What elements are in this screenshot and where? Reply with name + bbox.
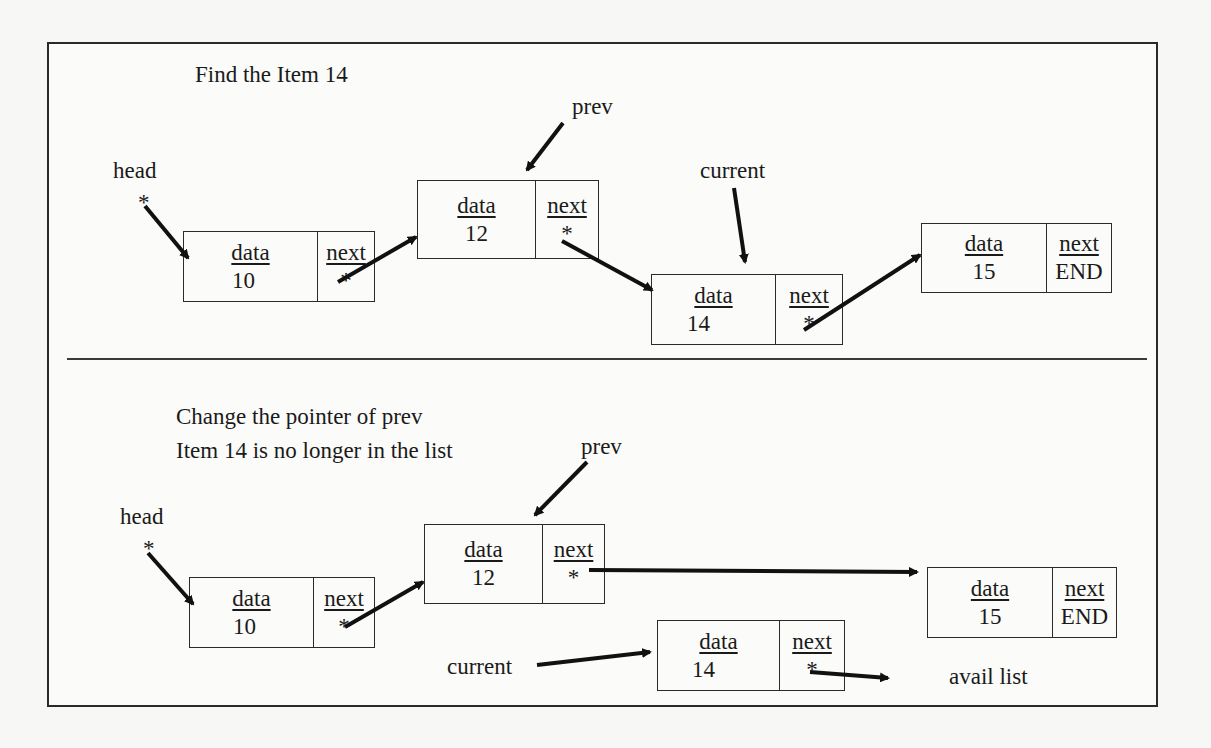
pointer-arrows bbox=[0, 0, 1211, 748]
arrow-current-to-14 bbox=[734, 188, 745, 262]
arrow-head-to-10 bbox=[145, 206, 188, 258]
arrow-10-to-12-bottom bbox=[345, 582, 423, 627]
arrow-prev-to-12 bbox=[527, 123, 563, 170]
arrow-12-to-15-bypass bbox=[589, 570, 917, 572]
arrow-current-to-14-bottom bbox=[537, 652, 650, 665]
arrow-14-to-15 bbox=[804, 255, 920, 330]
arrow-12-to-14 bbox=[562, 241, 652, 290]
arrow-10-to-12 bbox=[338, 237, 416, 282]
arrow-14-to-avail bbox=[810, 672, 888, 678]
arrow-head-to-10-bottom bbox=[148, 553, 193, 604]
arrow-prev-to-12-bottom bbox=[535, 462, 587, 515]
